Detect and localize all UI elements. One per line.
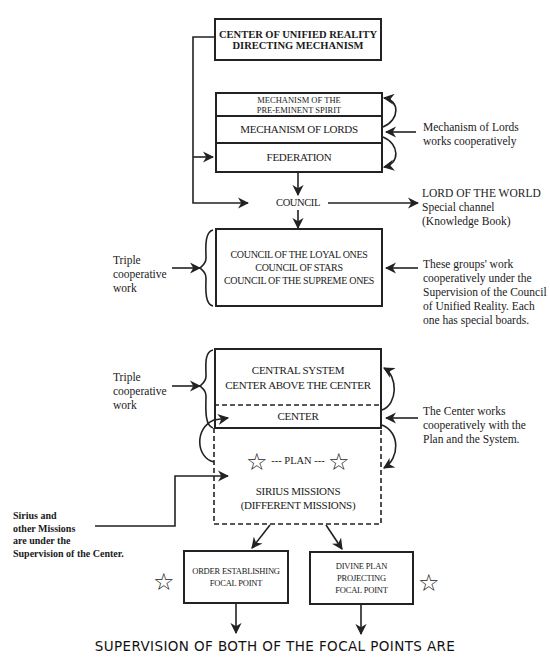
triple-work-1-line2: cooperative	[113, 267, 167, 281]
triple-work-2-line2: cooperative	[113, 384, 167, 398]
center-annotation-line3: Plan and the System.	[423, 432, 526, 446]
center-annotation: The Center works cooperatively with the …	[423, 404, 526, 446]
central-system-label: CENTRAL SYSTEM	[252, 363, 344, 378]
focal-right-line1: DIVINE PLAN	[336, 560, 387, 572]
footer-caption: SUPERVISION OF BOTH OF THE FOCAL POINTS …	[0, 638, 550, 654]
mechanism-annotation: Mechanism of Lords works cooperatively	[423, 120, 519, 148]
councils-annotation-line5: one has special boards.	[423, 313, 547, 327]
councils-box: COUNCIL OF THE LOYAL ONES COUNCIL OF STA…	[215, 228, 383, 307]
center-section: CENTER	[216, 405, 380, 427]
sirius-missions-line1: SIRIUS MISSIONS	[214, 484, 382, 498]
councils-annotation-line1: These groups' work	[423, 257, 547, 271]
center-annotation-line1: The Center works	[423, 404, 526, 418]
top-box-line2: DIRECTING MECHANISM	[233, 40, 364, 51]
sirius-annotation-line3: are under the	[13, 535, 124, 548]
sirius-missions-label: SIRIUS MISSIONS (DIFFERENT MISSIONS)	[214, 484, 382, 512]
triple-work-1-line1: Triple	[113, 253, 167, 267]
focal-right-line2: PROJECTING	[337, 572, 386, 584]
central-system-section: CENTRAL SYSTEM CENTER ABOVE THE CENTER	[216, 350, 380, 405]
federation-row: FEDERATION	[217, 144, 381, 171]
lord-of-world-line1: LORD OF THE WORLD	[422, 186, 541, 200]
pentagram-star-icon: ☆	[418, 571, 440, 595]
councils-annotation-line3: Supervision of the Council	[423, 285, 547, 299]
pentagram-star-icon: ☆	[246, 450, 268, 474]
divine-plan-focal-point-box: DIVINE PLAN PROJECTING FOCAL POINT	[309, 551, 414, 605]
pre-eminent-line1: MECHANISM OF THE	[217, 95, 381, 105]
center-above-center-label: CENTER ABOVE THE CENTER	[225, 378, 370, 393]
focal-left-line1: ORDER ESTABLISHING	[192, 565, 280, 577]
focal-left-line2: FOCAL POINT	[210, 577, 263, 589]
pentagram-star-icon: ☆	[328, 450, 350, 474]
lord-of-world-line2: Special channel	[422, 200, 541, 214]
lord-of-world-line3: (Knowledge Book)	[422, 214, 541, 228]
sirius-annotation: Sirius and other Missions are under the …	[13, 510, 124, 560]
center-annotation-line2: cooperatively with the	[423, 418, 526, 432]
councils-annotation-line4: of Unified Reality. Each	[423, 299, 547, 313]
councils-annotation: These groups' work cooperatively under t…	[423, 257, 547, 327]
sirius-annotation-line1: Sirius and	[13, 510, 124, 523]
triple-work-2-line1: Triple	[113, 370, 167, 384]
top-box-line1: CENTER OF UNIFIED REALITY	[219, 29, 377, 40]
lord-of-the-world-annotation: LORD OF THE WORLD Special channel (Knowl…	[422, 186, 541, 228]
council-supreme-ones: COUNCIL OF THE SUPREME ONES	[224, 274, 374, 287]
mechanism-annotation-line2: works cooperatively	[423, 134, 519, 148]
center-of-unified-reality-box: CENTER OF UNIFIED REALITY DIRECTING MECH…	[214, 18, 382, 61]
council-label: COUNCIL	[268, 197, 328, 209]
mechanism-annotation-line1: Mechanism of Lords	[423, 120, 519, 134]
triple-work-2-line3: work	[113, 398, 167, 412]
sirius-annotation-line4: Supervision of the Center.	[13, 548, 124, 561]
plan-label: --- PLAN ---	[268, 455, 328, 467]
central-system-box: CENTRAL SYSTEM CENTER ABOVE THE CENTER C…	[214, 348, 382, 429]
sirius-missions-line2: (DIFFERENT MISSIONS)	[214, 498, 382, 512]
pre-eminent-line2: PRE-EMINENT SPIRIT	[217, 105, 381, 115]
councils-annotation-line2: cooperatively under the	[423, 271, 547, 285]
order-establishing-focal-point-box: ORDER ESTABLISHING FOCAL POINT	[183, 550, 289, 604]
triple-work-annotation-2: Triple cooperative work	[113, 370, 167, 412]
pentagram-star-icon: ☆	[153, 570, 175, 594]
council-loyal-ones: COUNCIL OF THE LOYAL ONES	[230, 248, 367, 261]
triple-work-annotation-1: Triple cooperative work	[113, 253, 167, 295]
mechanism-of-lords-row: MECHANISM OF LORDS	[217, 117, 381, 144]
pre-eminent-spirit-row: MECHANISM OF THE PRE-EMINENT SPIRIT	[217, 94, 381, 117]
triple-work-1-line3: work	[113, 281, 167, 295]
focal-right-line3: FOCAL POINT	[335, 584, 388, 596]
sirius-annotation-line2: other Missions	[13, 523, 124, 536]
mechanism-box: MECHANISM OF THE PRE-EMINENT SPIRIT MECH…	[215, 92, 383, 173]
council-of-stars: COUNCIL OF STARS	[255, 261, 342, 274]
